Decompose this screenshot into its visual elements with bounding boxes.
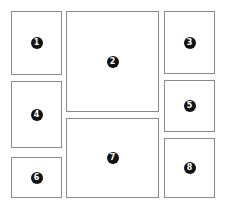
number-badge-4: 4	[31, 109, 43, 121]
panel-4: 4	[11, 81, 62, 148]
panel-2: 2	[66, 11, 159, 112]
number-badge-8: 8	[184, 162, 196, 174]
number-badge-3: 3	[184, 37, 196, 49]
number-badge-5: 5	[184, 100, 196, 112]
number-badge-6: 6	[31, 172, 43, 184]
panel-1: 1	[11, 11, 62, 75]
panel-6: 6	[11, 157, 62, 198]
panel-7: 7	[66, 118, 159, 198]
panel-3: 3	[164, 11, 215, 74]
panel-8: 8	[164, 138, 215, 198]
number-badge-1: 1	[31, 37, 43, 49]
number-badge-2: 2	[107, 56, 119, 68]
panel-5: 5	[164, 80, 215, 132]
number-badge-7: 7	[107, 152, 119, 164]
